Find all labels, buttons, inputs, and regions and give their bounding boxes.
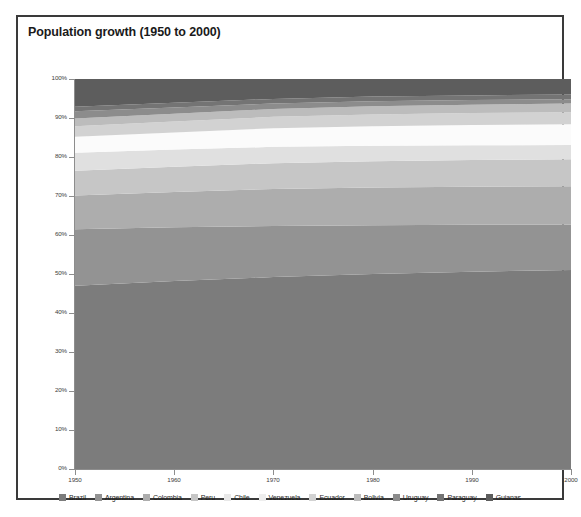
legend-item-brazil[interactable]: Brazil	[59, 494, 86, 501]
y-tick-mark	[69, 118, 74, 119]
legend-swatch-icon	[354, 494, 361, 501]
legend-swatch-icon	[95, 494, 102, 501]
x-tick-label: 1970	[266, 476, 279, 483]
legend-item-label: Uruguay	[403, 494, 429, 501]
legend-swatch-icon	[143, 494, 150, 501]
y-tick-label: 90%	[21, 113, 67, 120]
y-tick-mark	[69, 469, 74, 470]
legend-item-label: Guianas	[496, 494, 521, 501]
y-axis-line	[74, 79, 75, 470]
legend-item-bolivia[interactable]: Bolivia	[354, 494, 384, 501]
chart-legend: BrazilArgentinaColombiaPeruChileVenezuel…	[18, 487, 562, 507]
y-tick-label: 70%	[21, 191, 67, 198]
x-tick-mark	[273, 470, 274, 475]
chart-title: Population growth (1950 to 2000)	[28, 25, 221, 39]
legend-item-label: Venezuela	[269, 494, 301, 501]
legend-item-label: Ecuador	[319, 494, 344, 501]
legend-swatch-icon	[309, 494, 316, 501]
x-tick-mark	[472, 470, 473, 475]
legend-swatch-icon	[59, 494, 66, 501]
y-tick-label: 60%	[21, 230, 67, 237]
plot-area	[75, 79, 571, 469]
y-tick-label: 30%	[21, 347, 67, 354]
screenshot-root: Population growth (1950 to 2000) 0%10%20…	[0, 0, 581, 517]
legend-item-label: Colombia	[153, 494, 182, 501]
x-tick-label: 2000	[564, 476, 577, 483]
x-tick-label: 1980	[366, 476, 379, 483]
legend-item-uruguay[interactable]: Uruguay	[393, 494, 429, 501]
legend-swatch-icon	[437, 494, 444, 501]
legend-swatch-icon	[224, 494, 231, 501]
legend-item-label: Argentina	[105, 494, 134, 501]
x-tick-label: 1950	[68, 476, 81, 483]
x-tick-mark	[373, 470, 374, 475]
y-tick-label: 100%	[21, 74, 67, 81]
stacked-area-chart	[75, 79, 571, 469]
y-tick-mark	[69, 391, 74, 392]
y-tick-label: 40%	[21, 308, 67, 315]
y-tick-label: 80%	[21, 152, 67, 159]
legend-item-guianas[interactable]: Guianas	[486, 494, 521, 501]
x-tick-mark	[571, 470, 572, 475]
y-tick-mark	[69, 235, 74, 236]
legend-item-label: Brazil	[69, 494, 86, 501]
y-tick-label: 0%	[21, 464, 67, 471]
y-tick-label: 50%	[21, 269, 67, 276]
legend-swatch-icon	[486, 494, 493, 501]
y-tick-mark	[69, 352, 74, 353]
y-tick-mark	[69, 430, 74, 431]
chart-card: Population growth (1950 to 2000) 0%10%20…	[16, 15, 564, 500]
x-tick-label: 1960	[167, 476, 180, 483]
legend-item-paraguay[interactable]: Paraguay	[437, 494, 476, 501]
legend-item-label: Bolivia	[364, 494, 384, 501]
y-tick-label: 10%	[21, 425, 67, 432]
legend-item-chile[interactable]: Chile	[224, 494, 249, 501]
y-tick-mark	[69, 79, 74, 80]
legend-item-label: Chile	[234, 494, 249, 501]
legend-swatch-icon	[191, 494, 198, 501]
x-tick-label: 1990	[465, 476, 478, 483]
legend-item-label: Peru	[201, 494, 215, 501]
x-tick-mark	[174, 470, 175, 475]
area-band-brazil	[75, 270, 571, 469]
legend-item-venezuela[interactable]: Venezuela	[259, 494, 301, 501]
y-tick-mark	[69, 157, 74, 158]
legend-swatch-icon	[393, 494, 400, 501]
legend-item-ecuador[interactable]: Ecuador	[309, 494, 344, 501]
legend-item-label: Paraguay	[447, 494, 476, 501]
y-tick-mark	[69, 196, 74, 197]
legend-item-argentina[interactable]: Argentina	[95, 494, 134, 501]
legend-item-colombia[interactable]: Colombia	[143, 494, 182, 501]
y-tick-mark	[69, 313, 74, 314]
legend-swatch-icon	[259, 494, 266, 501]
y-tick-label: 20%	[21, 386, 67, 393]
y-tick-mark	[69, 274, 74, 275]
x-tick-mark	[75, 470, 76, 475]
x-axis-line	[74, 469, 572, 470]
legend-item-peru[interactable]: Peru	[191, 494, 215, 501]
